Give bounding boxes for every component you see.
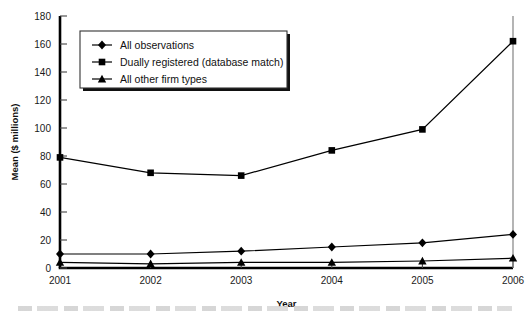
series-all-observations xyxy=(56,230,517,258)
y-tick-label-140: 140 xyxy=(34,67,51,78)
series-line xyxy=(60,234,513,254)
figure-caption-placeholder xyxy=(18,306,512,311)
x-tick-label-2003: 2003 xyxy=(230,275,253,286)
legend-label-2: All other firm types xyxy=(120,73,207,85)
legend: All observationsDually registered (datab… xyxy=(80,31,290,91)
data-point xyxy=(419,126,426,133)
x-tick-label-2002: 2002 xyxy=(139,275,162,286)
series-line xyxy=(60,258,513,264)
y-tick-label-80: 80 xyxy=(40,151,52,162)
y-tick-label-100: 100 xyxy=(34,123,51,134)
chart-figure: 0204060801001201401601802001200220032004… xyxy=(0,0,529,315)
y-axis-title: Mean ($ millions) xyxy=(9,103,20,180)
y-tick-label-180: 180 xyxy=(34,11,51,22)
legend-label-0: All observations xyxy=(120,39,194,51)
data-point xyxy=(328,243,336,252)
legend-label-1: Dually registered (database match) xyxy=(120,56,283,68)
data-point xyxy=(510,38,517,45)
x-tick-label-2001: 2001 xyxy=(49,275,72,286)
y-tick-label-20: 20 xyxy=(40,235,52,246)
y-tick-label-0: 0 xyxy=(45,263,51,274)
y-tick-label-60: 60 xyxy=(40,179,52,190)
y-tick-label-160: 160 xyxy=(34,39,51,50)
legend-marker-square-icon xyxy=(99,59,106,66)
y-tick-label-40: 40 xyxy=(40,207,52,218)
y-tick-label-120: 120 xyxy=(34,95,51,106)
data-point xyxy=(418,238,426,247)
x-tick-label-2005: 2005 xyxy=(411,275,434,286)
x-tick-label-2004: 2004 xyxy=(321,275,344,286)
data-point xyxy=(237,247,245,256)
data-point xyxy=(147,250,155,259)
x-tick-label-2006: 2006 xyxy=(502,275,525,286)
data-point xyxy=(57,154,64,161)
data-point xyxy=(329,147,336,154)
data-point xyxy=(56,250,64,259)
series-all-other-firm-types xyxy=(56,254,517,267)
data-point xyxy=(238,172,245,179)
data-point xyxy=(509,230,517,239)
data-point xyxy=(147,170,154,177)
line-chart: 0204060801001201401601802001200220032004… xyxy=(0,0,529,315)
